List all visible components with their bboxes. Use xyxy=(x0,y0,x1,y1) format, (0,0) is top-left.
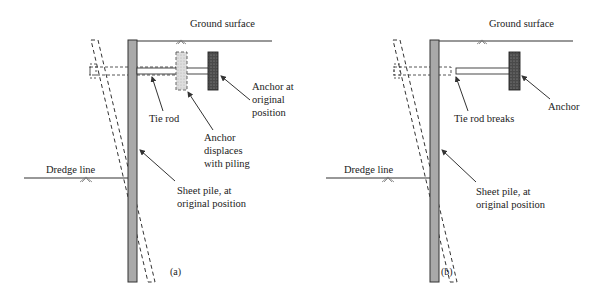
sheet-pile-label-2: original position xyxy=(476,199,546,210)
sheet-pile xyxy=(430,40,439,282)
dredge-line-label: Dredge line xyxy=(344,164,394,175)
sheet-pile-arrow xyxy=(140,150,175,181)
caption-a: (a) xyxy=(170,266,181,278)
anchor-original xyxy=(208,52,218,90)
panel-a: Ground surface Dredge line Tie rod Ancho… xyxy=(24,18,294,282)
sheet-pile-arrow xyxy=(442,150,476,182)
anchor xyxy=(509,52,520,90)
anchor-displaced-arrow xyxy=(188,92,213,130)
ground-surface-label: Ground surface xyxy=(489,18,554,29)
panel-b: Ground surface Dredge line Tie rod break… xyxy=(326,18,580,282)
tie-rod-arrow xyxy=(152,77,163,111)
anchor-label: Anchor xyxy=(548,101,580,112)
displaced-sheet-pile xyxy=(393,40,457,282)
anchor-displaced-label-1: Anchor xyxy=(204,132,236,143)
displaced-tie-rod-end xyxy=(90,64,96,78)
anchor-original-label-3: position xyxy=(252,107,287,118)
dredge-line-label: Dredge line xyxy=(46,164,96,175)
anchor-original-label-2: original xyxy=(252,94,285,105)
ground-surface-label: Ground surface xyxy=(190,18,255,29)
anchor-arrow xyxy=(522,76,550,99)
displaced-anchor xyxy=(176,52,187,90)
sheet-pile-label-2: original position xyxy=(177,198,247,209)
anchor-original-arrow xyxy=(221,76,250,100)
tie-rod xyxy=(137,68,209,74)
displaced-tie-rod xyxy=(394,67,451,75)
sheet-pile-label-1: Sheet pile, at xyxy=(476,186,531,197)
tie-rod-label: Tie rod xyxy=(149,113,180,124)
caption-b: (b) xyxy=(441,266,453,278)
sheet-pile xyxy=(128,40,137,282)
tie-rod-broken xyxy=(456,68,510,74)
anchor-displaced-label-3: with piling xyxy=(204,158,251,169)
anchor-original-label-1: Anchor at xyxy=(252,81,294,92)
tie-rod-breaks-label: Tie rod breaks xyxy=(454,113,514,124)
anchor-displaced-label-2: displaces xyxy=(204,145,243,156)
displaced-sheet-pile xyxy=(91,40,155,282)
tie-rod-breaks-arrow xyxy=(456,77,468,111)
sheet-pile-label-1: Sheet pile, at xyxy=(177,185,232,196)
